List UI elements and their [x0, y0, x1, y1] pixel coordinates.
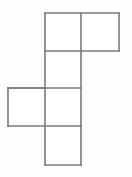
net-cell-left	[8, 88, 45, 126]
net-figure-container: Polyomino net of five squares Line drawi…	[0, 0, 132, 177]
net-cell-group	[8, 13, 119, 165]
net-cell-top-left	[45, 13, 81, 51]
square-net-drawing	[0, 0, 132, 177]
net-cell-middle-lower	[45, 88, 81, 126]
net-cell-top-right	[81, 13, 119, 51]
net-cell-middle-upper	[45, 51, 81, 88]
net-cell-bottom	[45, 126, 81, 165]
